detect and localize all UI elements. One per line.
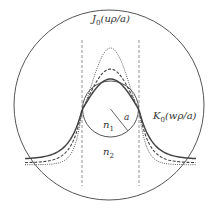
mode-profile-dotted	[25, 48, 196, 165]
cladding-index-sub: 2	[109, 152, 113, 160]
bessel-k-label: K0(wρ/a)	[152, 110, 197, 124]
cladding-circle	[14, 10, 204, 200]
mode-curves	[25, 48, 196, 165]
fiber-mode-diagram: J0(uρ/a) K0(wρ/a) a n1 n2	[0, 0, 220, 222]
core-index-sub: 1	[109, 125, 113, 133]
cladding-index-label: n2	[103, 146, 114, 160]
radius-label: a	[124, 112, 129, 122]
bessel-j-label: J0(uρ/a)	[90, 13, 130, 27]
bessel-j-arg: (uρ/a)	[100, 13, 130, 24]
core-index-label: n1	[103, 119, 114, 133]
bessel-k-arg: (wρ/a)	[165, 110, 197, 121]
